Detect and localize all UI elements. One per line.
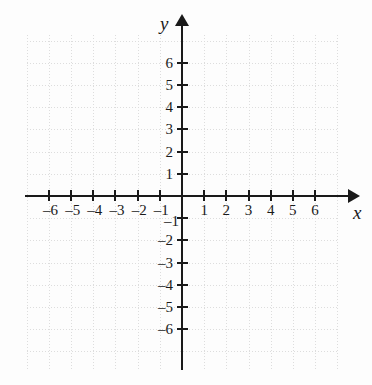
x-axis-tick [70,190,72,201]
y-axis-tick-label: 6 [143,56,173,71]
y-axis-line [181,26,183,370]
y-axis-tick [177,284,188,286]
x-axis-tick [92,190,94,201]
y-axis-tick-label: –5 [143,300,173,315]
y-axis-tick-label: 4 [143,100,173,115]
y-axis-tick [177,262,188,264]
x-axis-label: x [353,203,361,222]
x-axis-tick [114,190,116,201]
y-axis-arrowhead-icon [175,14,189,26]
x-axis-tick [225,190,227,201]
y-axis-tick-label: –3 [143,256,173,271]
y-axis-tick [177,106,188,108]
x-axis-tick [159,190,161,201]
y-axis-tick [177,239,188,241]
y-axis-tick-label: –2 [143,233,173,248]
y-axis-tick-label: 2 [143,145,173,160]
x-axis-line [25,195,350,197]
y-axis-tick-label: 5 [143,78,173,93]
x-axis-tick-label: 6 [302,203,328,218]
grid-line-vertical [337,35,338,370]
y-axis-tick-label: –1 [149,214,179,229]
y-axis-tick [177,128,188,130]
y-axis-tick [177,62,188,64]
y-axis-tick [177,173,188,175]
y-axis-tick-label: 1 [143,167,173,182]
y-axis-tick [177,306,188,308]
x-axis-tick [248,190,250,201]
y-axis-tick [177,328,188,330]
y-axis-tick-label: –6 [143,322,173,337]
y-axis-tick [177,84,188,86]
x-axis-tick [314,190,316,201]
x-axis-tick [292,190,294,201]
coordinate-plane-figure: –6–5–4–3–2–1123456654321–1–2–3–4–5–6 x y [0,0,372,385]
y-axis-label: y [160,14,168,33]
y-axis-tick [177,151,188,153]
y-axis-tick-label: 3 [143,122,173,137]
x-axis-tick [137,190,139,201]
x-axis-tick [48,190,50,201]
x-axis-tick [270,190,272,201]
x-axis-arrowhead-icon [348,189,360,203]
y-axis-tick-label: –4 [143,278,173,293]
x-axis-tick [203,190,205,201]
